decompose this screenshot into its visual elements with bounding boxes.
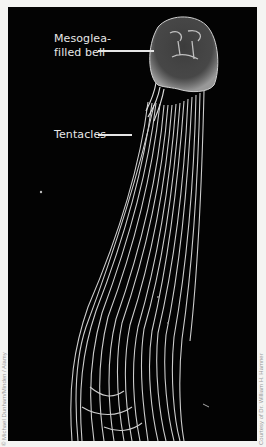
label-line: Mesoglea- [54, 32, 111, 46]
photo-credit-left: © Michael Dunham/Minden / Alamy [1, 352, 7, 446]
leader-line-tentacles [98, 134, 132, 136]
jellyfish-photo: Mesoglea- filled bell Tentacles [8, 7, 257, 441]
label-mesoglea-bell: Mesoglea- filled bell [54, 32, 111, 60]
label-line: filled bell [54, 46, 111, 60]
photo-credit-right: Courtesy of Dr. William H. Hamner [258, 353, 264, 445]
jellyfish-illustration [8, 7, 257, 441]
leader-line-bell [98, 50, 154, 52]
